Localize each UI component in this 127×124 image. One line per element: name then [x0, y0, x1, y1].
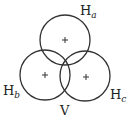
- label-v: V: [60, 104, 69, 117]
- label-hb: Hb: [3, 84, 20, 100]
- label-hc: Hc: [110, 88, 126, 104]
- label-ha: Ha: [80, 4, 97, 20]
- circle-hc: [60, 51, 110, 101]
